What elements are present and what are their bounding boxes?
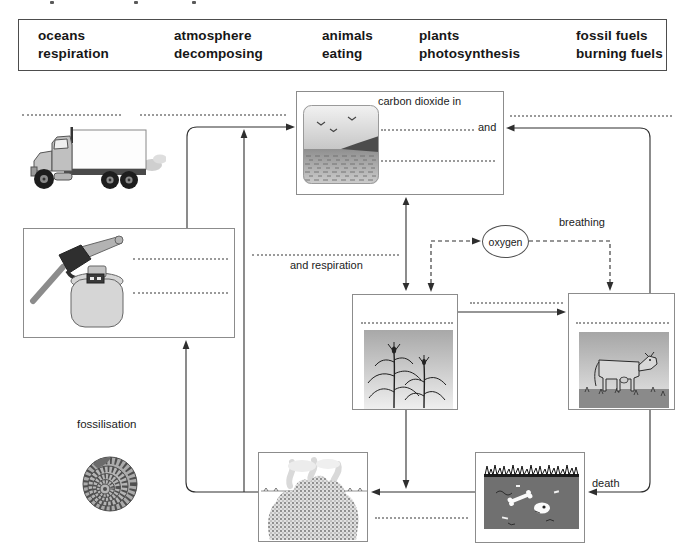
fill-in-blank-top-right	[510, 115, 672, 117]
arrow-plants-to-compost	[403, 410, 410, 489]
cropped-text-remnant	[192, 1, 196, 4]
cow-illustration	[579, 332, 669, 408]
fossilisation-label: fossilisation	[77, 418, 136, 431]
compost-box	[258, 452, 368, 542]
word-bank-word: eating	[322, 45, 373, 63]
plants-box	[352, 294, 458, 410]
word-bank-word: burning fuels	[576, 45, 663, 63]
carbon-dioxide-box: carbon dioxide in and	[296, 91, 504, 195]
word-bank-word: respiration	[38, 45, 109, 63]
fill-in-blank-animals	[576, 322, 669, 324]
fossil-fuels-box	[23, 228, 235, 338]
carbon-cycle-worksheet: oceans respiration atmosphere decomposin…	[0, 0, 700, 560]
fill-in-blank-fossil-fuels-1	[133, 258, 228, 260]
oxygen-label: oxygen	[489, 236, 523, 248]
arrow-plants-to-animals	[458, 309, 566, 316]
ammonite-fossil-illustration	[79, 444, 141, 516]
dashed-arrow-plants-oxygen	[428, 238, 481, 292]
word-bank-box: oceans respiration atmosphere decomposin…	[18, 19, 667, 71]
word-bank-word: oceans	[38, 27, 109, 45]
word-bank-word: plants	[419, 27, 520, 45]
cropped-text-remnant	[50, 1, 54, 4]
fill-in-blank-eating	[470, 302, 563, 304]
dashed-arrow-oxygen-to-animals	[529, 241, 613, 291]
oxygen-ellipse: oxygen	[482, 225, 529, 258]
fill-in-blank-burning-fuels-b	[140, 114, 286, 116]
word-bank-column: animals eating	[322, 27, 373, 63]
maize-plants-illustration	[364, 330, 453, 409]
fill-in-blank-burning-fuels-a	[22, 114, 121, 116]
arrow-compost-to-fossil-fuels	[183, 340, 258, 492]
buried-bones-illustration	[484, 463, 579, 533]
word-bank-word: photosynthesis	[419, 45, 520, 63]
word-bank-column: plants photosynthesis	[419, 27, 520, 63]
animals-box	[568, 293, 675, 410]
arrow-dead-remains-to-compost	[371, 489, 475, 496]
arrow-animals-to-atmosphere	[506, 125, 650, 293]
compost-heap-illustration	[260, 454, 368, 542]
word-bank-word: animals	[322, 27, 373, 45]
death-label: death	[592, 477, 620, 490]
ocean-coast-illustration	[303, 105, 379, 184]
word-bank-word: atmosphere	[174, 27, 263, 45]
truck-illustration	[26, 121, 166, 191]
fill-in-blank-oceans	[381, 160, 495, 162]
breathing-label: breathing	[559, 216, 605, 229]
dead-remains-box	[475, 452, 585, 543]
arrow-compost-to-atmosphere	[241, 129, 248, 492]
word-bank-column: oceans respiration	[38, 27, 109, 63]
fill-in-blank-atmosphere	[381, 129, 474, 131]
fill-in-blank-plants	[361, 322, 453, 324]
carbon-box-title: carbon dioxide in	[378, 95, 461, 108]
arrow-atmosphere-plants-two-way	[403, 197, 410, 291]
word-bank-column: atmosphere decomposing	[174, 27, 263, 63]
and-label: and	[478, 121, 496, 134]
cropped-text-remnant	[134, 1, 138, 4]
word-bank-word: decomposing	[174, 45, 263, 63]
fill-in-blank-photosynthesis	[252, 254, 399, 256]
word-bank-word: fossil fuels	[576, 27, 663, 45]
fill-in-blank-fossil-fuels-2	[133, 292, 228, 294]
fuel-pump-illustration	[29, 233, 134, 333]
arrow-fossil-fuels-to-atmosphere	[187, 124, 295, 228]
word-bank-column: fossil fuels burning fuels	[576, 27, 663, 63]
fill-in-blank-decomposing	[375, 517, 468, 519]
and-respiration-label: and respiration	[290, 259, 363, 272]
